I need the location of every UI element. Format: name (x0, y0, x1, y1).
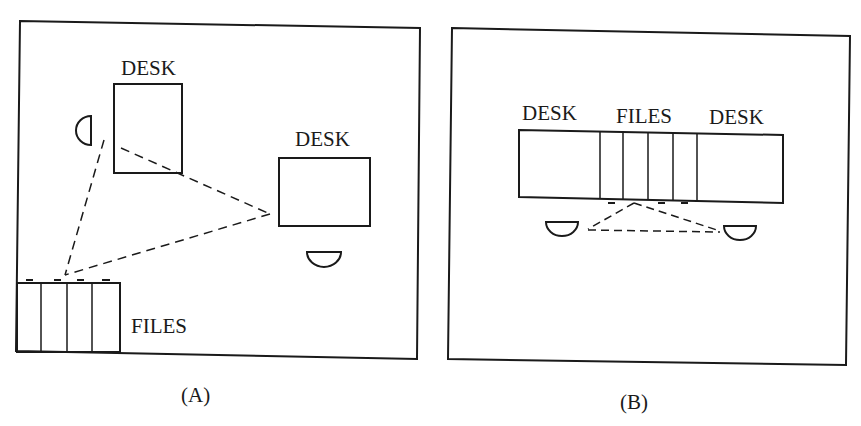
desk-a1 (114, 84, 182, 173)
office-layout-figure: DESK DESK FILES (A) DESK FILES DESK (B) (0, 0, 861, 426)
chair-b1-icon (546, 222, 578, 236)
desk-b2-label: DESK (709, 105, 764, 129)
caption-a: (A) (181, 383, 210, 407)
panel-a (16, 21, 420, 359)
files-a (17, 283, 120, 352)
chair-b2-icon (724, 226, 756, 240)
chair-a1-icon (76, 116, 91, 145)
desk-a1-label: DESK (121, 56, 176, 80)
traffic-path-a (65, 140, 270, 275)
chair-a2-icon (307, 252, 341, 267)
room-outline-a (16, 21, 420, 359)
room-outline-b (448, 28, 850, 365)
desk-a2-label: DESK (295, 127, 350, 151)
desk-b1-label: DESK (522, 101, 577, 125)
caption-b: (B) (620, 390, 648, 414)
panel-b (448, 28, 850, 365)
desk-a2 (279, 158, 370, 226)
files-a-label: FILES (131, 314, 187, 338)
desk-files-block-b (519, 130, 783, 203)
files-b-label: FILES (616, 104, 672, 128)
traffic-path-b (588, 203, 720, 232)
